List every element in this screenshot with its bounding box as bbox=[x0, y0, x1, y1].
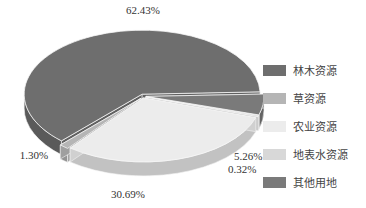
data-label: 62.43% bbox=[126, 4, 160, 16]
legend-item-grass: 草资源 bbox=[263, 84, 348, 112]
legend-item-forest: 林木资源 bbox=[263, 56, 348, 84]
legend-label: 林木资源 bbox=[293, 62, 337, 78]
legend-item-other-land: 其他用地 bbox=[263, 168, 348, 196]
data-label: 5.26% bbox=[234, 150, 262, 162]
data-label: 30.69% bbox=[111, 188, 145, 200]
legend-label: 其他用地 bbox=[293, 174, 337, 190]
legend-swatch bbox=[263, 149, 286, 160]
legend-label: 草资源 bbox=[293, 90, 326, 106]
legend-swatch bbox=[263, 121, 286, 132]
legend-item-surface-water: 地表水资源 bbox=[263, 140, 348, 168]
legend-swatch bbox=[263, 65, 286, 76]
legend-label: 地表水资源 bbox=[293, 146, 348, 162]
pie-slices bbox=[24, 30, 264, 176]
legend-label: 农业资源 bbox=[293, 118, 337, 134]
data-label: 1.30% bbox=[20, 149, 48, 161]
legend: 林木资源 草资源 农业资源 地表水资源 其他用地 bbox=[263, 56, 348, 196]
legend-swatch bbox=[263, 177, 286, 188]
data-label: 0.32% bbox=[228, 163, 256, 175]
legend-swatch bbox=[263, 93, 286, 104]
legend-item-agriculture: 农业资源 bbox=[263, 112, 348, 140]
